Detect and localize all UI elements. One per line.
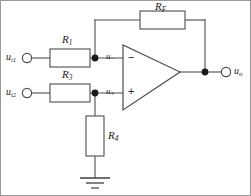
label-input1: ui1: [6, 52, 16, 62]
terminal-output-circle: [221, 67, 230, 76]
junction-output-node: [202, 69, 209, 76]
label-input2: ui2: [6, 87, 16, 97]
junction-noninverting-node: [92, 90, 99, 97]
resistor-r3-body: [50, 84, 90, 102]
label-resistor-rf: RF: [155, 1, 166, 12]
label-noninverting-input-node: u+: [106, 87, 114, 96]
terminal-input2-circle: [22, 88, 31, 97]
opamp-inverting-sign: −: [128, 52, 134, 63]
label-resistor-r1: R1: [62, 34, 72, 45]
label-output: uo: [234, 66, 242, 76]
opamp-noninverting-sign: +: [128, 86, 134, 97]
junction-inverting-node: [92, 55, 99, 62]
label-resistor-r3: R3: [62, 69, 72, 80]
resistor-r1-body: [50, 49, 90, 67]
circuit-schematic-svg: [0, 0, 251, 196]
label-inverting-input-node: u−: [106, 52, 114, 61]
terminal-input1-circle: [22, 53, 31, 62]
resistor-r4-body: [86, 116, 104, 156]
label-resistor-r4: R4: [108, 130, 118, 141]
circuit-diagram-canvas: ui1 ui2 R1 R3 RF R4 u− u+ uo − +: [0, 0, 251, 196]
